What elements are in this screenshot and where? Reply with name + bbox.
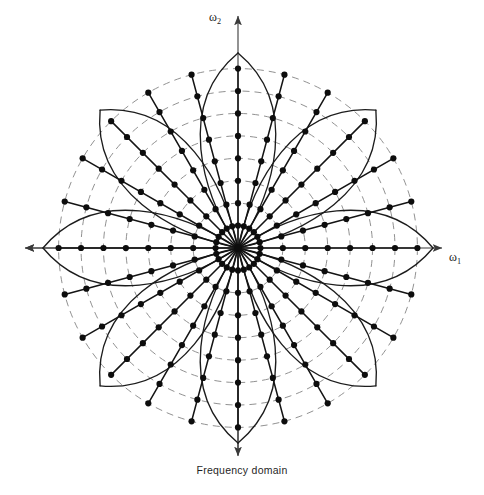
sample-point [274, 267, 280, 273]
sample-point [264, 353, 270, 359]
sample-point [200, 375, 206, 381]
sample-point [127, 274, 133, 280]
sample-point [100, 245, 106, 251]
sample-point [302, 245, 308, 251]
sample-point [235, 290, 241, 296]
sample-point [156, 109, 162, 115]
sample-point [325, 90, 331, 96]
sample-point [124, 134, 130, 140]
sample-point [371, 166, 377, 172]
sample-point [145, 400, 151, 406]
sample-point [235, 66, 241, 72]
vertical-axis-label: ω2 [209, 10, 221, 26]
sample-point [108, 118, 114, 124]
sample-point [281, 72, 287, 78]
sample-point [192, 233, 198, 239]
sample-point [282, 292, 288, 298]
sample-point [203, 213, 209, 219]
sample-point [212, 206, 218, 212]
sample-point [291, 342, 297, 348]
sample-point [300, 262, 306, 268]
sample-point [179, 342, 185, 348]
sample-point [247, 202, 253, 208]
sample-point [171, 181, 177, 187]
sample-point [188, 72, 194, 78]
sample-point [212, 158, 218, 164]
sample-point [127, 216, 133, 222]
sample-point-origin [234, 244, 242, 252]
sample-point [241, 223, 247, 229]
sample-point [235, 379, 241, 385]
sample-point [190, 167, 196, 173]
sample-point [314, 324, 320, 330]
sample-point [257, 206, 263, 212]
sample-point [157, 200, 163, 206]
sample-point [280, 245, 286, 251]
sample-point [281, 418, 287, 424]
sample-point [206, 137, 212, 143]
sample-point [171, 308, 177, 314]
sample-point [408, 291, 414, 297]
sample-point [291, 148, 297, 154]
sample-point [124, 356, 130, 362]
vertical-axis-label-subscript: 2 [217, 17, 221, 26]
sample-point [108, 372, 114, 378]
sample-point [56, 245, 62, 251]
sample-point [330, 340, 336, 346]
sample-point [217, 180, 223, 186]
sample-point [235, 88, 241, 94]
sample-point [212, 245, 218, 251]
sample-point [188, 418, 194, 424]
sample-point [223, 202, 229, 208]
sample-point [229, 267, 235, 273]
sample-point [105, 210, 111, 216]
sample-point [293, 211, 299, 217]
sample-point [235, 200, 241, 206]
sample-point [371, 323, 377, 329]
sample-point [170, 262, 176, 268]
sample-point [252, 310, 258, 316]
sample-point [351, 178, 357, 184]
sample-point [267, 277, 273, 283]
sample-point [322, 268, 328, 274]
sample-point [212, 332, 218, 338]
sample-point [168, 245, 174, 251]
sample-point [83, 204, 89, 210]
sample-point [314, 166, 320, 172]
sample-point [322, 222, 328, 228]
sample-point [168, 361, 174, 367]
sample-point [80, 335, 86, 341]
sample-point [269, 303, 275, 309]
sample-point [280, 323, 286, 329]
sample-point [200, 115, 206, 121]
sample-point [390, 155, 396, 161]
sample-point [177, 211, 183, 217]
sample-point [257, 284, 263, 290]
sample-point [235, 335, 241, 341]
sample-point [325, 245, 331, 251]
sample-point [168, 128, 174, 134]
sample-point [213, 251, 219, 257]
sample-point [213, 239, 219, 245]
sample-point [387, 204, 393, 210]
sample-point [123, 245, 129, 251]
sample-point [365, 210, 371, 216]
sample-point [270, 115, 276, 121]
sample-point [343, 216, 349, 222]
sample-point [229, 223, 235, 229]
sample-point [235, 178, 241, 184]
sample-point [62, 291, 68, 297]
frequency-domain-figure: ω2 ω1 Frequency domain [0, 0, 484, 495]
sample-point [235, 267, 241, 273]
sample-point [138, 301, 144, 307]
sample-point [313, 290, 319, 296]
sample-point [254, 256, 260, 262]
sample-point [194, 397, 200, 403]
sample-point [156, 324, 162, 330]
sample-point [276, 397, 282, 403]
sample-point [387, 286, 393, 292]
sample-point [300, 227, 306, 233]
figure-caption: Frequency domain [0, 464, 484, 476]
sample-point [390, 335, 396, 341]
sample-point [83, 286, 89, 292]
